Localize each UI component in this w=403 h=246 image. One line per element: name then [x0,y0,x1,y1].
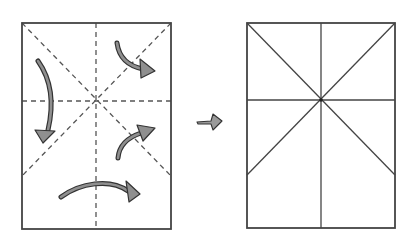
fold-bottom-arrow-icon [61,181,140,202]
fold-upper-right-arrow-icon [117,43,155,78]
next-step-arrow-icon [197,114,222,130]
center-point [319,98,323,102]
fold-down-arrow-icon [35,61,55,143]
folding-diagram: Paper folding instructions: fold along d… [0,0,403,246]
before-panel [22,23,171,229]
after-panel [247,23,395,228]
dashed-creases [22,23,171,229]
solid-creases [247,23,395,228]
diagram-svg [0,0,403,246]
